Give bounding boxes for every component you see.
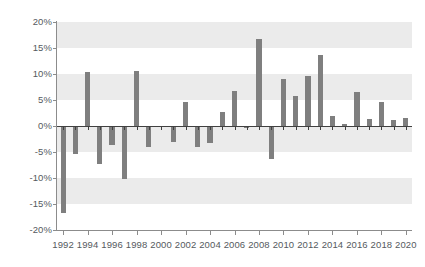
zero-line-tick [406,127,407,130]
zero-line-tick [394,127,395,130]
zero-line-tick [161,127,162,130]
zero-line-tick [173,127,174,130]
zero-line-tick [357,127,358,130]
zero-line-tick [235,127,236,130]
zero-line-tick [63,127,64,130]
zero-line-tick [124,127,125,130]
zero-line-tick [381,127,382,130]
zero-line-tick [271,127,272,130]
zero-line-tick [259,127,260,130]
zero-line-tick [186,127,187,130]
zero-line-tick [247,127,248,130]
zero-line-tick [100,127,101,130]
zero-line-tick [296,127,297,130]
zero-line-tick [320,127,321,130]
zero-line-tick [308,127,309,130]
zero-line-tick [149,127,150,130]
zero-line-tick [112,127,113,130]
zero-line-tick [210,127,211,130]
zero-line-tick [283,127,284,130]
zero-line-tick [332,127,333,130]
zero-line-tick [369,127,370,130]
bar-chart: 20%15%10%5%0%-5%-10%-15%-20% 19921994199… [0,0,425,267]
zero-line-tick [137,127,138,130]
zero-line-tick [75,127,76,130]
zero-line-tick [198,127,199,130]
zero-line-tick [345,127,346,130]
zero-line-tick [222,127,223,130]
x-axis-tick-labels: 1992199419961998200020022004200620082010… [0,0,425,267]
zero-line-tick [88,127,89,130]
x-axis-tick-label: 2020 [389,239,423,250]
